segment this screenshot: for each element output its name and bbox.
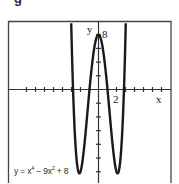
equation-suffix: + 8 <box>55 166 69 176</box>
function-graph: x y 2 8 <box>0 0 179 183</box>
plot-frame <box>9 22 172 184</box>
x-axis-label: x <box>156 93 162 105</box>
y-axis-label: y <box>87 23 93 35</box>
axes <box>9 22 172 184</box>
equation-middle: − 9x <box>34 166 52 176</box>
x-tick-label-2: 2 <box>113 93 119 105</box>
y-tick-label-8: 8 <box>102 28 108 40</box>
equation-label: y = x4 − 9x2 + 8 <box>14 165 68 176</box>
equation-prefix: y = x <box>14 166 31 176</box>
